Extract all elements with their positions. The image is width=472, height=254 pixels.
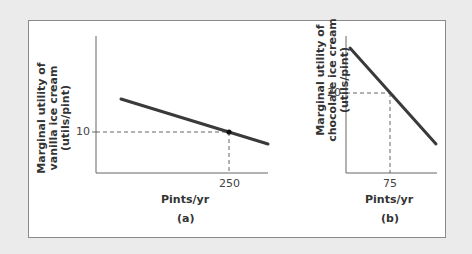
panel-b-y-tick: 20 (327, 86, 341, 99)
panel-a-axes (96, 36, 268, 173)
panel-a-mu-line (121, 99, 268, 144)
panel-a-label: (a) (177, 212, 194, 225)
panel-b-guides (346, 93, 390, 173)
ylabel-line: (utils/pint) (339, 17, 351, 143)
ylabel-line: (utils/pint) (60, 55, 72, 181)
panel-b-x-tick: 75 (383, 177, 397, 190)
panel-a-x-tick: 250 (219, 177, 240, 190)
panel-a-xlabel: Pints/yr (161, 193, 209, 206)
panel-b-label: (b) (381, 212, 399, 225)
panel-a-point (226, 129, 231, 134)
panel-a-ylabel: Marginal utility of vanilla ice cream (u… (36, 55, 72, 181)
panel-b-xlabel: Pints/yr (365, 193, 413, 206)
panel-a-y-tick: 10 (76, 125, 90, 138)
panel-b-ylabel: Marginal utility of chocolate ice cream … (315, 17, 351, 143)
panel-a-guides (92, 132, 229, 173)
panel-b-mu-line (350, 48, 436, 144)
